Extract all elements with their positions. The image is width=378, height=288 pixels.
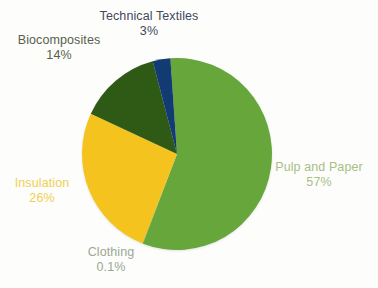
slice-label-technical-textiles-name: Technical Textiles: [84, 9, 214, 24]
slice-label-insulation-value: 26%: [2, 191, 82, 206]
slice-label-clothing: Clothing 0.1%: [62, 245, 160, 275]
pie-chart-graphic: [82, 58, 272, 250]
bottom-clipped-caption: [0, 279, 378, 288]
slice-label-biocomposites: Biocomposites 14%: [3, 33, 115, 63]
pie-svg: [82, 58, 272, 250]
slice-label-pulp-and-paper-name: Pulp and Paper: [262, 160, 376, 175]
slice-label-pulp-and-paper: Pulp and Paper 57%: [262, 160, 376, 190]
slice-label-pulp-and-paper-value: 57%: [262, 175, 376, 190]
slice-label-insulation-name: Insulation: [2, 176, 82, 191]
slice-label-clothing-name: Clothing: [62, 245, 160, 260]
slice-label-insulation: Insulation 26%: [2, 176, 82, 206]
pie-chart-figure: Technical Textiles 3% Biocomposites 14% …: [0, 0, 378, 288]
slice-label-biocomposites-name: Biocomposites: [3, 33, 115, 48]
slice-label-clothing-value: 0.1%: [62, 260, 160, 275]
slice-label-biocomposites-value: 14%: [3, 48, 115, 63]
